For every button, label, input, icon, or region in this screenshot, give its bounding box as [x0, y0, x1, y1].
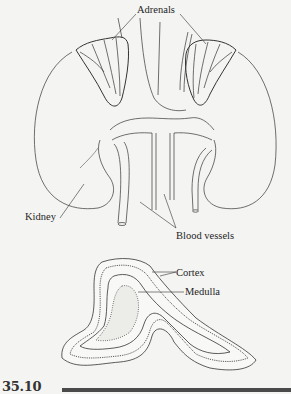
right-kidney: [204, 52, 276, 209]
left-kidney: [34, 52, 113, 209]
label-blood-vessels: Blood vessels: [176, 230, 234, 242]
figure-rule-divider: [62, 388, 291, 392]
label-medulla: Medulla: [185, 286, 220, 298]
leader-adrenals-left: [112, 14, 136, 40]
leader-adrenals-right: [180, 14, 206, 44]
figure-illustration: [0, 0, 291, 394]
right-adrenal: [185, 40, 236, 105]
label-kidney: Kidney: [25, 211, 56, 223]
label-cortex: Cortex: [176, 267, 205, 279]
leader-blood-1: [140, 202, 176, 228]
label-adrenals: Adrenals: [137, 4, 175, 16]
adrenal-cross-section: [62, 259, 256, 370]
figure-number: 35.10: [2, 379, 41, 394]
leader-cortex-1: [160, 272, 176, 276]
left-adrenal: [76, 37, 129, 106]
leader-kidney: [60, 184, 84, 218]
